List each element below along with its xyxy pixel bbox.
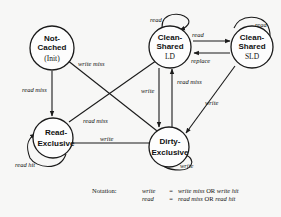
label-nc-to-de: write miss — [78, 60, 105, 67]
state-de-line2: Exclusive — [152, 148, 189, 157]
notation-read-rhs: read miss OR read hit — [178, 195, 235, 203]
state-clean-shared-sld: Clean- Shared SLD — [231, 26, 273, 68]
label-re-self: read hit — [15, 161, 35, 168]
notation-spacer — [92, 195, 142, 203]
state-clean-shared-ld: Clean- Shared LD — [149, 26, 191, 68]
state-sld-line1: Clean- — [240, 33, 265, 42]
notation-read-eq: = — [164, 195, 178, 203]
label-re-to-de: write — [100, 135, 113, 142]
notation-label: Notation: — [92, 187, 142, 195]
notation-write-lhs: write — [142, 187, 164, 195]
notation-read-a: read miss — [178, 195, 203, 202]
state-dirty-exclusive: Dirty- Exclusive — [149, 127, 189, 167]
state-sld-sub: SLD — [245, 52, 260, 61]
state-diagram: read miss write miss read miss write rea… — [0, 0, 281, 217]
label-sld-to-de: write — [205, 99, 218, 106]
notation-legend: Notation: write = write miss OR write hi… — [92, 187, 239, 203]
notation-write-eq: = — [164, 187, 178, 195]
state-ld-line1: Clean- — [158, 33, 183, 42]
edge-nc-to-de — [67, 60, 166, 138]
state-read-exclusive: Read- Exclusive — [33, 118, 75, 158]
label-ld-to-sld: read — [192, 31, 204, 38]
label-sld-to-ld: replace — [191, 57, 210, 64]
label-ld-self: read — [150, 16, 162, 23]
state-re-line2: Exclusive — [38, 139, 75, 148]
state-not-cached-sub: (Init) — [44, 54, 60, 63]
state-ld-sub: LD — [165, 52, 176, 61]
state-not-cached: Not- Cached (Init) — [30, 26, 74, 70]
notation-write-b: write hit — [217, 187, 239, 194]
label-ld-to-de: write — [141, 87, 154, 94]
notation-write-a: write miss — [178, 187, 205, 194]
state-sld-line2: Shared — [238, 42, 265, 51]
notation-row-write: Notation: write = write miss OR write hi… — [92, 187, 239, 195]
notation-read-or: OR — [204, 195, 213, 202]
notation-read-lhs: read — [142, 195, 164, 203]
notation-read-b: read hit — [215, 195, 235, 202]
label-re-to-ld: read miss — [83, 117, 108, 124]
state-re-line1: Read- — [45, 128, 68, 137]
state-de-line1: Dirty- — [160, 137, 181, 146]
state-not-cached-line2: Cached — [38, 43, 67, 52]
state-not-cached-line1: Not- — [44, 34, 60, 43]
notation-row-read: read = read miss OR read hit — [92, 195, 239, 203]
label-nc-to-re: read miss — [22, 86, 47, 93]
notation-write-or: OR — [206, 187, 215, 194]
label-de-self: write — [180, 162, 193, 169]
state-ld-line2: Shared — [156, 42, 183, 51]
label-de-to-ld: read miss — [177, 78, 202, 85]
notation-write-rhs: write miss OR write hit — [178, 187, 239, 195]
